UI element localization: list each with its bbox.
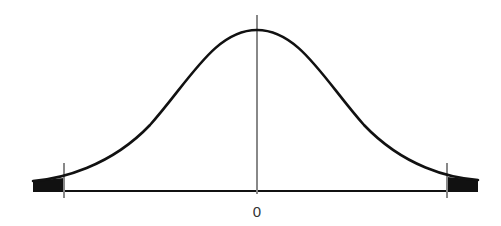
bell-curve: [33, 30, 478, 181]
normal-curve-diagram: [0, 0, 501, 226]
center-label: 0: [253, 203, 261, 220]
